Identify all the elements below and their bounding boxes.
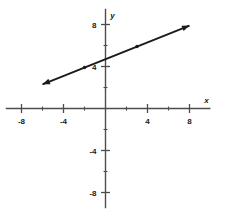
graph-canvas: -8-44884-4-8 x y [0,0,225,215]
y-tick-label: 8 [92,21,97,30]
y-axis-label: y [109,11,115,20]
plot-background [0,0,225,215]
x-tick-label: 4 [145,117,150,126]
x-tick-label: -8 [18,117,26,126]
y-tick-label: -8 [89,189,97,198]
data-point [135,45,138,48]
x-tick-label: 8 [187,117,192,126]
x-tick-label: -4 [60,117,68,126]
coordinate-plane-figure: -8-44884-4-8 x y [0,0,225,215]
data-point [83,66,86,69]
x-axis-label: x [203,96,209,105]
y-tick-label: -4 [89,147,97,156]
